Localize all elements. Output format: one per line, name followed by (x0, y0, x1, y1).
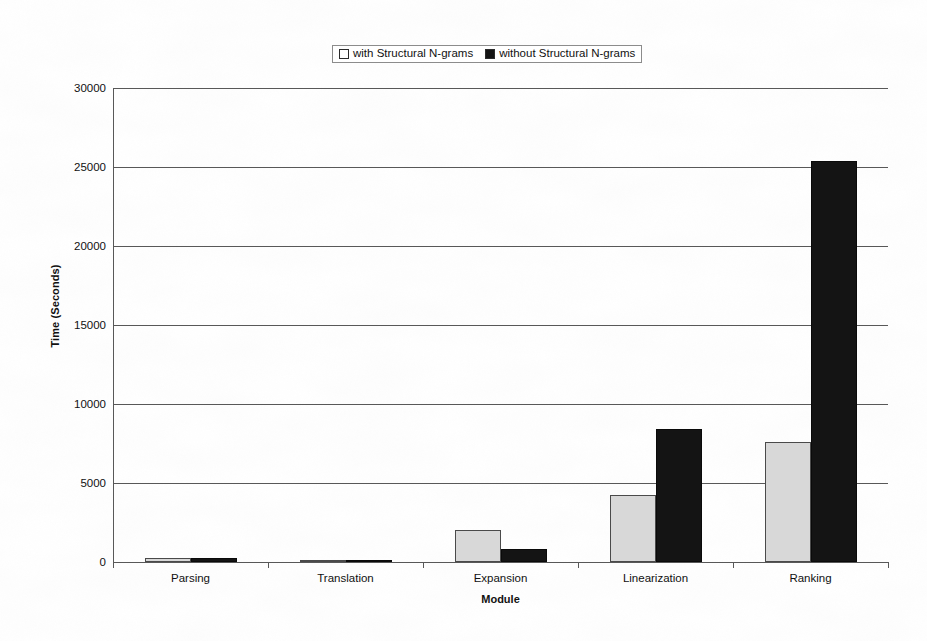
legend-label-series-1: without Structural N-grams (499, 48, 635, 60)
legend-label-series-0: with Structural N-grams (353, 48, 473, 60)
y-axis-tick-label: 10000 (50, 398, 106, 410)
open-square-icon (339, 49, 349, 59)
bar-chart-figure: with Structural N-grams without Structur… (0, 0, 927, 641)
bar-series-container (113, 88, 888, 562)
legend-entry-with-structural-ngrams: with Structural N-grams (339, 48, 473, 60)
x-axis-title: Module (113, 593, 888, 605)
bar-group (268, 88, 423, 562)
bar (501, 549, 547, 562)
bar-group (578, 88, 733, 562)
chart-legend: with Structural N-grams without Structur… (332, 45, 642, 63)
bar (811, 161, 857, 562)
x-axis-tick-mark (733, 562, 734, 568)
bar (765, 442, 811, 562)
bar-group (113, 88, 268, 562)
x-axis-tick-mark (423, 562, 424, 568)
x-axis-tick-label: Translation (317, 572, 373, 584)
y-axis-tick-label: 5000 (50, 477, 106, 489)
x-axis-tick-marks (113, 562, 888, 568)
y-axis-title: Time (Seconds) (49, 246, 61, 366)
bar (610, 495, 656, 562)
x-axis-tick-mark (113, 562, 114, 568)
bar-group (423, 88, 578, 562)
x-axis-tick-label: Expansion (474, 572, 528, 584)
x-axis-tick-mark (578, 562, 579, 568)
bar (455, 530, 501, 562)
y-axis-tick-label: 30000 (50, 82, 106, 94)
x-axis-tick-mark (888, 562, 889, 568)
legend-entry-without-structural-ngrams: without Structural N-grams (485, 48, 635, 60)
bar (656, 429, 702, 562)
filled-square-icon (485, 49, 495, 59)
x-axis-tick-label: Linearization (623, 572, 688, 584)
bar-group (733, 88, 888, 562)
x-axis-tick-mark (268, 562, 269, 568)
x-axis-tick-label: Ranking (789, 572, 831, 584)
y-axis-tick-label: 25000 (50, 161, 106, 173)
x-axis-tick-label: Parsing (171, 572, 210, 584)
x-axis-tick-labels: ParsingTranslationExpansionLinearization… (113, 572, 888, 588)
y-axis-tick-label: 0 (50, 556, 106, 568)
